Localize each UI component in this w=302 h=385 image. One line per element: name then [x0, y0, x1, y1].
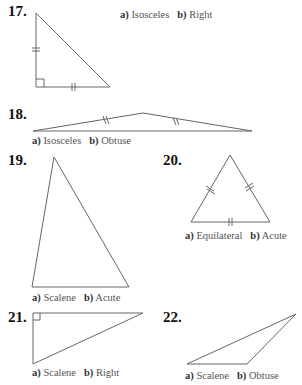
problem-number: 20. — [163, 152, 182, 169]
answer-b-label: b) — [84, 292, 93, 303]
answer: a) Isosceles b) Obtuse — [32, 135, 131, 146]
answer-b-label: b) — [237, 370, 246, 381]
triangle-22 — [187, 314, 296, 364]
triangle-19 — [32, 157, 129, 287]
answer-a-label: a) — [185, 370, 194, 381]
answer: a) Scalene b) Obtuse — [185, 370, 279, 381]
answer-b-label: b) — [250, 230, 259, 241]
answer-b-label: b) — [177, 9, 186, 20]
problem-number: 18. — [8, 106, 27, 123]
triangle-17 — [32, 13, 110, 91]
problem-number: 19. — [8, 152, 27, 169]
answer-a-value: Scalene — [43, 292, 76, 303]
answer-a-label: a) — [32, 135, 41, 146]
answer-a-label: a) — [32, 367, 41, 378]
problem-number: 21. — [8, 309, 27, 326]
answer-b-value: Obtuse — [249, 370, 279, 381]
answer-a-label: a) — [32, 292, 41, 303]
answer: a) Equilateral b) Acute — [185, 230, 287, 241]
answer-b-value: Obtuse — [101, 135, 131, 146]
answer-b-value: Acute — [262, 230, 287, 241]
triangle-20 — [191, 155, 270, 226]
answer-b-label: b) — [84, 367, 93, 378]
answer-a-value: Equilateral — [196, 230, 242, 241]
problem-number: 22. — [163, 309, 182, 326]
answer-a-value: Isosceles — [131, 9, 169, 20]
answer-b-label: b) — [89, 135, 98, 146]
triangle-figures — [0, 0, 302, 385]
answer: a) Scalene b) Acute — [32, 292, 120, 303]
answer-b-value: Acute — [95, 292, 120, 303]
answer-a-label: a) — [185, 230, 194, 241]
answer: a) Scalene b) Right — [32, 367, 119, 378]
answer-a-value: Isosceles — [43, 135, 81, 146]
answer-a-label: a) — [120, 9, 129, 20]
answer-b-value: Right — [189, 9, 212, 20]
answer-b-value: Right — [96, 367, 119, 378]
answer-a-value: Scalene — [196, 370, 229, 381]
triangle-21 — [33, 313, 143, 364]
answer: a) Isosceles b) Right — [120, 9, 212, 20]
problem-number: 17. — [8, 3, 27, 20]
answer-a-value: Scalene — [43, 367, 76, 378]
triangle-18 — [33, 113, 252, 131]
